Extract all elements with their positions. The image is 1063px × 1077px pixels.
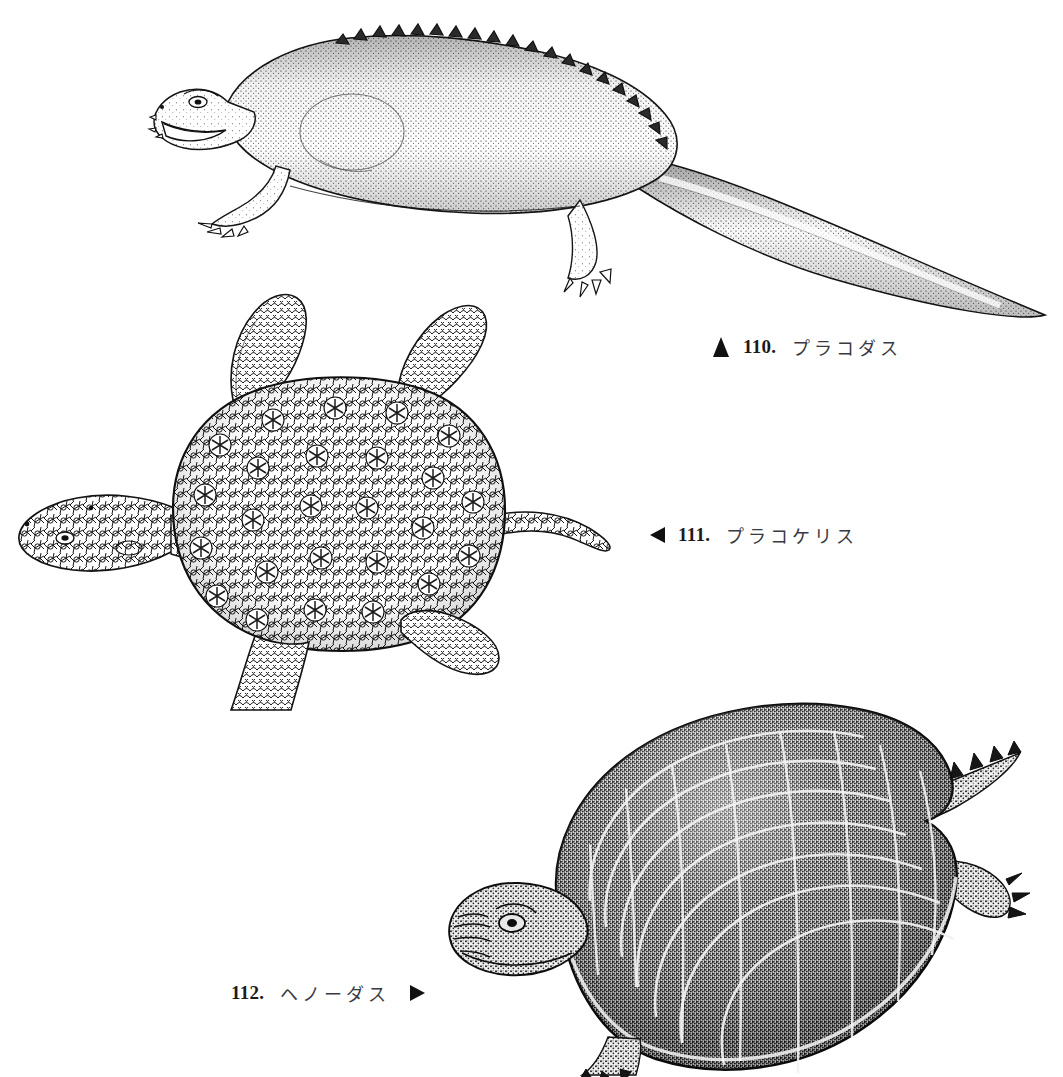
triangle-right-icon [410,985,425,1001]
figure-placochelys [5,280,635,710]
caption-number: 112. [231,982,264,1004]
caption-name: プラコダス [792,334,902,360]
placochelys-hind-left-flipper [231,636,309,710]
caption-112: 112. ヘノーダス [231,980,425,1006]
triangle-left-icon [650,527,665,543]
henodus-left-forelimb [578,1037,641,1077]
placodus-forelimb [212,166,290,226]
placodus-hindlimb [568,200,597,279]
figure-henodus [440,665,1063,1077]
triangle-up-icon [713,337,729,357]
caption-number: 110. [743,336,776,358]
caption-number: 111. [678,524,710,546]
henodus-head [449,883,587,975]
placochelys-tail [491,512,610,551]
caption-name: プラコケリス [726,522,858,548]
henodus-right-hindlimb [948,861,1030,918]
caption-110: 110. プラコダス [713,334,902,360]
caption-name: ヘノーダス [280,980,390,1006]
placochelys-head [19,495,185,571]
illustration-plate: 110. プラコダス 111. プラコケリス 112. ヘノーダス [0,0,1063,1077]
caption-111: 111. プラコケリス [650,522,858,548]
